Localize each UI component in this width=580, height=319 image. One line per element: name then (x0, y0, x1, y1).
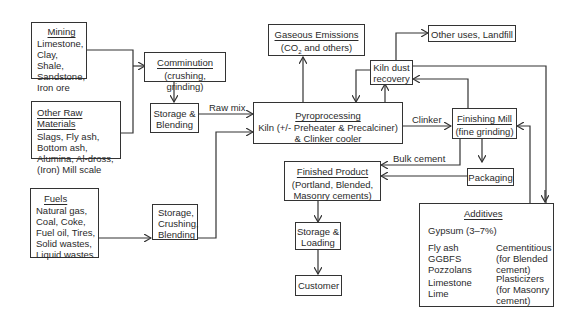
additive-item: Pozzolans (428, 264, 472, 275)
kiln-dust-line: Kiln dust (371, 62, 412, 73)
additives-box: Additives Gypsum (3–7%) Fly ash GGBFS Po… (419, 203, 554, 307)
pyroprocessing-title: Pyroprocessing (254, 110, 402, 121)
pyroprocessing-line: & Clinker cooler (254, 133, 402, 144)
mining-line: Iron ore (37, 82, 86, 93)
other-raw-materials-box: Other Raw Materials Slags, Fly ash, Bott… (31, 101, 121, 159)
other-raw-title: Other Raw Materials (37, 107, 120, 129)
storage-crushing-line: Blending (158, 229, 197, 240)
packaging-box: Packaging (467, 168, 514, 186)
mining-line: Limestone, (37, 38, 86, 49)
additives-gypsum: Gypsum (3–7%) (428, 225, 497, 236)
pyroprocessing-line: Kiln (+/- Preheater & Precalciner) (254, 122, 402, 133)
additive-desc: (for Masonry (496, 284, 549, 295)
additives-group1-desc: Cementitious (for Blended cement) (496, 242, 551, 275)
storage-crushing-line: Storage, (158, 207, 197, 218)
comminution-sub: (crushing, grinding) (145, 70, 225, 92)
packaging-label: Packaging (468, 172, 513, 183)
additive-desc: (for Blended (496, 253, 551, 264)
mining-line: Clay, Shale, (37, 49, 86, 71)
kiln-dust-line: recovery (371, 73, 412, 84)
pyroprocessing-box: Pyroprocessing Kiln (+/- Preheater & Pre… (253, 102, 403, 144)
finishing-mill-sub: (fine grinding) (453, 126, 516, 137)
additive-item: Lime (428, 288, 472, 299)
additive-item: GGBFS (428, 253, 472, 264)
comminution-box: Comminution (crushing, grinding) (144, 52, 226, 82)
comminution-title: Comminution (145, 57, 225, 68)
finished-product-title: Finished Product (285, 166, 380, 177)
fuels-line: Solid wastes, (36, 238, 98, 249)
finishing-mill-title: Finishing Mill (453, 113, 516, 124)
mining-line: Sandstone, (37, 71, 86, 82)
customer-box: Customer (295, 275, 342, 296)
storage-loading-line: Loading (296, 237, 340, 248)
additive-item: Fly ash (428, 242, 472, 253)
additives-group1-items: Fly ash GGBFS Pozzolans (428, 242, 472, 275)
bulk-cement-label: Bulk cement (393, 153, 445, 164)
finished-product-line: (Portland, Blended, (285, 179, 380, 190)
other-raw-line: (Iron) Mill scale (37, 164, 120, 175)
additive-item: Limestone (428, 277, 472, 288)
additive-desc: cement) (496, 295, 549, 306)
kiln-dust-recovery-box: Kiln dust recovery (370, 60, 413, 85)
other-uses-landfill-box: Other uses, Landfill (428, 25, 516, 42)
mining-box: Mining Limestone, Clay, Shale, Sandstone… (31, 22, 87, 79)
storage-blending-box: Storage & Blending (150, 103, 199, 133)
gaseous-emissions-box: Gaseous Emissions (CO2 and others) (268, 24, 365, 56)
customer-label: Customer (296, 280, 341, 291)
storage-blending-line: Storage & (151, 108, 198, 119)
other-uses-label: Other uses, Landfill (429, 29, 515, 40)
mining-title: Mining (37, 26, 86, 37)
finishing-mill-box: Finishing Mill (fine grinding) (452, 108, 517, 139)
additive-desc: Cementitious (496, 242, 551, 253)
additives-title: Additives (464, 208, 503, 219)
fuels-line: Fuel oil, Tires, (36, 227, 98, 238)
finished-product-line: Masonry cements) (285, 190, 380, 201)
clinker-label: Clinker (412, 114, 442, 125)
emissions-sub: (CO2 and others) (269, 42, 364, 58)
additives-group2-items: Limestone Lime (428, 277, 472, 299)
storage-loading-line: Storage & (296, 226, 340, 237)
other-raw-line: Slags, Fly ash, (37, 131, 120, 142)
storage-blending-line: Blending (151, 119, 198, 130)
additive-desc: Plasticizers (496, 273, 549, 284)
fuels-line: Liquid wastes (36, 249, 98, 260)
emissions-title: Gaseous Emissions (269, 29, 364, 40)
finished-product-box: Finished Product (Portland, Blended, Mas… (284, 161, 381, 201)
other-raw-line: Bottom ash, (37, 142, 120, 153)
fuels-box: Fuels Natural gas, Coal, Coke, Fuel oil,… (30, 188, 99, 258)
additives-group2-desc: Plasticizers (for Masonry cement) (496, 273, 549, 306)
fuels-title: Fuels (44, 193, 98, 204)
storage-loading-box: Storage & Loading (295, 222, 341, 250)
storage-crushing-line: Crushing, (158, 218, 197, 229)
fuels-line: Natural gas, (36, 205, 98, 216)
other-raw-line: Alumina, Al-dross, (37, 153, 120, 164)
fuels-line: Coal, Coke, (36, 216, 98, 227)
storage-crushing-blending-box: Storage, Crushing, Blending (152, 204, 198, 240)
raw-mix-label: Raw mix (209, 102, 245, 113)
